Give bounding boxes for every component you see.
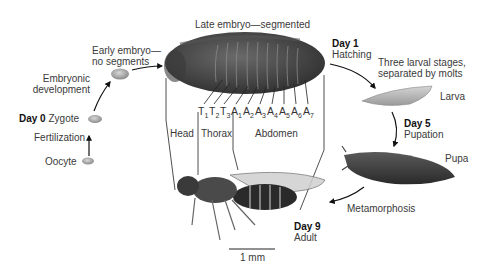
day5-pupation-label: Day 5 Pupation	[404, 118, 443, 140]
segment-a6: A6	[291, 105, 302, 119]
day0-label: Day 0	[19, 113, 46, 124]
abdomen-label: Abdomen	[255, 128, 298, 139]
segment-t3: T3	[220, 105, 230, 119]
segment-a2: A2	[243, 105, 254, 119]
late-embryo-label: Late embryo—segmented	[195, 19, 310, 30]
segment-t1: T1	[198, 105, 208, 119]
head-label: Head	[170, 128, 194, 139]
metamorphosis-label: Metamorphosis	[347, 203, 415, 214]
thorax-label: Thorax	[201, 128, 232, 139]
hatching-arrow	[330, 64, 375, 88]
early-embryo-label: Early embryo— no segments	[92, 45, 161, 67]
metamorphosis-arrow	[330, 187, 364, 202]
oocyte-image	[82, 158, 94, 165]
segment-a3: A3	[255, 105, 266, 119]
larva-image	[362, 86, 432, 105]
pupation-arrow	[392, 112, 397, 146]
scale-bar-label: 1 mm	[240, 252, 265, 263]
day9-adult-label: Day 9 Adult	[294, 221, 321, 243]
fertilization-label: Fertilization	[34, 132, 85, 143]
larva-label: Larva	[440, 91, 465, 102]
pupa-image	[342, 146, 455, 184]
segment-a7: A7	[303, 105, 314, 119]
pupa-label: Pupa	[445, 153, 468, 164]
segment-t2: T2	[209, 105, 219, 119]
oocyte-label: Oocyte	[45, 156, 77, 167]
day1-hatching-label: Day 1 Hatching	[332, 38, 371, 60]
segment-a1: A1	[231, 105, 242, 119]
late-embryo-image	[164, 32, 325, 94]
segment-a5: A5	[279, 105, 290, 119]
segment-a4: A4	[267, 105, 278, 119]
embryonic-development-label: Embryonic development	[30, 73, 90, 95]
zygote-image	[88, 115, 102, 123]
development-arrow	[94, 82, 110, 111]
larval-stages-note: Three larval stages, separated by molts	[378, 57, 466, 79]
early-embryo-image	[111, 69, 129, 80]
zygote-label: Zygote	[48, 113, 79, 124]
